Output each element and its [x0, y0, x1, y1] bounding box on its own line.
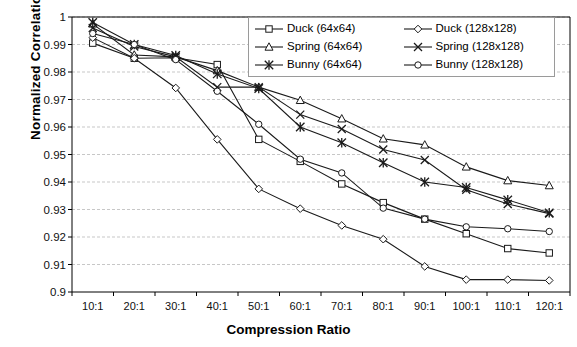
legend-item[interactable]: Spring (128x128): [403, 41, 552, 53]
x-tick-label: 60:1: [290, 300, 311, 312]
x-tick-label: 40:1: [207, 300, 228, 312]
legend-item[interactable]: Bunny (128x128): [403, 59, 552, 71]
x-tick-label: 10:1: [82, 300, 103, 312]
x-tick-label: 20:1: [124, 300, 145, 312]
legend-item[interactable]: Duck (64x64): [254, 23, 403, 35]
x-tick-label: 90:1: [414, 300, 435, 312]
x-tick-label: 80:1: [373, 300, 394, 312]
legend-item[interactable]: Duck (128x128): [403, 23, 552, 35]
triangle-marker-icon: [254, 41, 284, 53]
legend-item[interactable]: Bunny (64x64): [254, 59, 403, 71]
legend-label: Bunny (64x64): [287, 59, 362, 71]
legend-label: Duck (128x128): [436, 23, 517, 35]
x-tick-label: 50:1: [248, 300, 269, 312]
chart-figure: Normalized Correlation 10.990.980.970.96…: [0, 0, 577, 347]
x-tick-label: 100:1: [452, 300, 480, 312]
x-marker-icon: [403, 41, 433, 53]
x-tick-label: 110:1: [494, 300, 521, 312]
square-marker-icon: [254, 23, 284, 35]
legend-label: Duck (64x64): [287, 23, 355, 35]
legend-item[interactable]: Spring (64x64): [254, 41, 403, 53]
x-tick-label: 30:1: [165, 300, 186, 312]
circle-marker-icon: [403, 59, 433, 71]
x-axis-title: Compression Ratio: [0, 322, 577, 337]
asterisk-marker-icon: [254, 59, 284, 71]
x-tick-label: 70:1: [331, 300, 352, 312]
diamond-marker-icon: [403, 23, 433, 35]
chart-legend: Duck (64x64)Duck (128x128)Spring (64x64)…: [248, 17, 555, 77]
legend-label: Spring (128x128): [436, 41, 524, 53]
legend-label: Bunny (128x128): [436, 59, 524, 71]
x-tick-label: 120:1: [535, 300, 563, 312]
legend-label: Spring (64x64): [287, 41, 362, 53]
